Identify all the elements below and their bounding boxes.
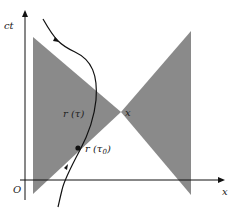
r-tau-prefix: r — [63, 108, 69, 119]
r-tau-label: r (τ) — [63, 108, 84, 119]
spacetime-diagram: ct x O x r (τ) r (τ0) — [0, 0, 238, 214]
point-r-tau0 — [75, 145, 80, 150]
r-tau-arg: (τ) — [71, 108, 84, 119]
worldline-arrow-lower-icon — [64, 164, 68, 170]
event-x-label: x — [125, 107, 131, 118]
r-tau0-close: ) — [106, 143, 111, 154]
origin-label: O — [13, 184, 21, 195]
ct-axis-label: ct — [4, 20, 15, 31]
r-tau0-prefix: r — [85, 143, 91, 154]
x-axis-label: x — [222, 186, 228, 197]
r-tau0-label: r (τ0) — [85, 143, 111, 156]
right-cone-region — [121, 31, 191, 195]
r-tau0-arg: (τ — [93, 143, 103, 154]
